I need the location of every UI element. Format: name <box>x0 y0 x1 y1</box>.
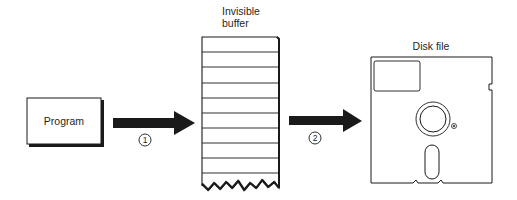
arrow-shaft-icon <box>113 118 175 128</box>
disk-node: Disk file <box>371 40 492 183</box>
arrow-head-icon <box>174 111 195 135</box>
disk-label: Disk file <box>413 40 450 52</box>
arrow-shaft-icon <box>289 116 344 125</box>
buffer-body <box>202 37 279 190</box>
step-2-arrow: 2 <box>289 109 362 144</box>
disk-hub-hole <box>420 106 446 132</box>
step-1-number: 1 <box>143 135 148 145</box>
step-2-number: 2 <box>313 133 318 143</box>
buffered-write-diagram: Program 1 Invisible buffer 2 <box>0 0 517 200</box>
buffer-label-line1: Invisible <box>222 5 260 17</box>
buffer-node: Invisible buffer <box>202 5 279 190</box>
program-node: Program <box>27 98 104 147</box>
index-hole-dot <box>453 125 455 127</box>
buffer-label-line2: buffer <box>222 17 249 29</box>
read-write-slot <box>425 145 439 179</box>
program-label: Program <box>44 115 85 127</box>
disk-label-area <box>374 61 420 91</box>
step-1-arrow: 1 <box>113 111 195 146</box>
arrow-head-icon <box>343 109 362 132</box>
